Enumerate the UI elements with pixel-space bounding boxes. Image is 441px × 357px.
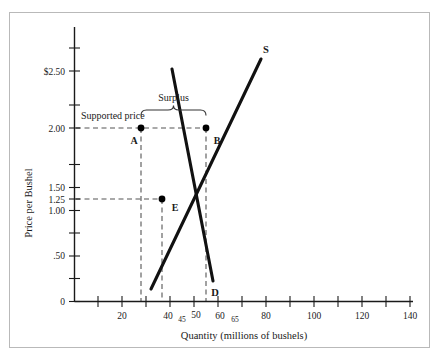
surplus-bracket [141, 106, 206, 116]
y-axis-title: Price per Bushel [23, 168, 34, 237]
point-e-label: E [172, 202, 179, 213]
figure-frame: 0 .50 1.00 1.25 1.50 2.00 $2.50 [9, 12, 430, 348]
x-tick-label-60: 60 [215, 311, 225, 321]
x-tick-label-65: 65 [231, 315, 239, 324]
chart-page: 0 .50 1.00 1.25 1.50 2.00 $2.50 [0, 0, 441, 357]
y-tick-label-250: $2.50 [44, 67, 66, 77]
point-b-marker [203, 125, 210, 132]
point-a-marker [138, 125, 145, 132]
supply-curve-label: S [263, 44, 269, 55]
x-tick-label-100: 100 [307, 311, 322, 321]
x-tick-label-45: 45 [178, 315, 186, 324]
y-tick-label-050: .50 [53, 251, 65, 261]
y-axis-tick-labels: 0 .50 1.00 1.25 1.50 2.00 $2.50 [44, 67, 66, 307]
x-axis-title: Quantity (millions of bushels) [181, 330, 308, 342]
x-tick-label-120: 120 [355, 311, 370, 321]
supply-demand-chart: 0 .50 1.00 1.25 1.50 2.00 $2.50 [10, 13, 429, 347]
y-tick-label-150: 1.50 [48, 183, 65, 193]
surplus-annotation: Surplus [158, 92, 189, 103]
supported-price-annotation: Supported price [81, 110, 145, 121]
axes [75, 27, 414, 302]
point-b-label: B [214, 135, 221, 146]
x-axis-tick-labels: 20 40 45 50 60 65 80 100 120 140 [117, 310, 417, 324]
y-tick-label-125: 1.25 [48, 195, 65, 205]
point-e-marker [159, 196, 166, 203]
y-tick-label-0: 0 [60, 297, 65, 307]
x-tick-label-80: 80 [261, 311, 271, 321]
x-tick-label-50: 50 [191, 310, 201, 320]
y-tick-label-200: 2.00 [48, 124, 65, 134]
demand-curve-label: D [211, 287, 219, 298]
x-tick-label-20: 20 [117, 311, 127, 321]
point-a-label: A [130, 135, 138, 146]
x-tick-label-140: 140 [403, 311, 418, 321]
x-tick-label-40: 40 [163, 311, 173, 321]
y-tick-label-100: 1.00 [48, 206, 65, 216]
